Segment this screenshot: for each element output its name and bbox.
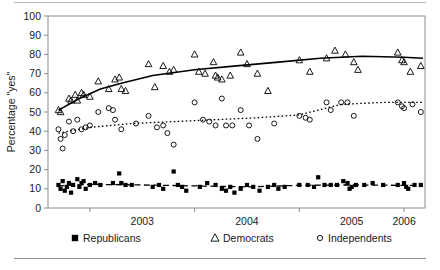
marker-square [297, 183, 301, 187]
x-tick-label: 2004 [235, 215, 259, 227]
marker-square [58, 187, 62, 191]
marker-circle [230, 123, 235, 128]
marker-triangle [116, 74, 123, 80]
marker-square [419, 183, 423, 187]
marker-circle [66, 119, 71, 124]
marker-square [56, 183, 60, 187]
y-tick-label: 10 [29, 182, 41, 194]
scatter-chart: Percentage "yes" 0102030405060708090100 … [0, 0, 440, 270]
marker-square [184, 189, 188, 193]
marker-triangle [407, 68, 414, 74]
legend-label: Democrats [223, 232, 274, 244]
marker-square [322, 183, 326, 187]
x-tick-label: 2003 [131, 215, 155, 227]
marker-square [283, 185, 287, 189]
marker-square [354, 183, 358, 187]
marker-square [123, 183, 127, 187]
marker-square [396, 183, 400, 187]
marker-triangle [160, 62, 167, 68]
marker-square [63, 189, 67, 193]
marker-square [117, 171, 121, 175]
series-independents [56, 96, 423, 151]
marker-circle [351, 113, 356, 118]
marker-triangle [95, 78, 102, 84]
marker-square [371, 181, 375, 185]
marker-square [205, 181, 209, 185]
marker-triangle [145, 61, 152, 67]
marker-square [151, 185, 155, 189]
marker-circle [255, 136, 260, 141]
marker-circle [161, 123, 166, 128]
marker-circle [171, 142, 176, 147]
marker-circle [75, 117, 80, 122]
marker-circle [345, 100, 350, 105]
marker-circle [58, 136, 63, 141]
marker-circle [328, 108, 333, 113]
y-tick-label: 40 [29, 125, 41, 137]
marker-square [257, 189, 261, 193]
marker-square [224, 189, 228, 193]
marker-square [350, 185, 354, 189]
marker-circle [62, 133, 67, 138]
marker-square [119, 181, 123, 185]
figure-bottom-rule [14, 258, 426, 259]
marker-triangle [170, 66, 177, 72]
marker-circle [297, 113, 302, 118]
y-tick-label: 70 [29, 67, 41, 79]
marker-circle [87, 123, 92, 128]
marker-square [228, 185, 232, 189]
marker-circle [119, 127, 124, 132]
marker-square [130, 183, 134, 187]
marker-triangle [210, 59, 217, 65]
y-tick-label: 50 [29, 106, 41, 118]
y-tick-label: 0 [35, 202, 41, 214]
marker-circle [165, 131, 170, 136]
marker-triangle [306, 68, 313, 74]
marker-triangle [227, 72, 234, 78]
marker-square [61, 179, 65, 183]
marker-square [180, 185, 184, 189]
marker-square [157, 183, 161, 187]
marker-square [220, 187, 224, 191]
y-axis-ticks: 0102030405060708090100 [23, 10, 48, 214]
marker-square [272, 183, 276, 187]
marker-square [82, 179, 86, 183]
marker-circle [219, 96, 224, 101]
marker-triangle [332, 47, 339, 53]
legend-item-independents: Independents [317, 232, 391, 244]
marker-square [335, 183, 339, 187]
marker-square [93, 181, 97, 185]
figure-container: Percentage "yes" 0102030405060708090100 … [0, 0, 440, 270]
marker-square [176, 183, 180, 187]
marker-square [402, 181, 406, 185]
marker-square [276, 187, 280, 191]
marker-circle [146, 113, 151, 118]
trend-line-democrats [58, 56, 422, 110]
legend-item-democrats: Democrats [211, 232, 274, 244]
marker-square [69, 191, 73, 195]
marker-circle [238, 108, 243, 113]
marker-square [406, 187, 410, 191]
x-axis-ticks: 2003200420052006 [90, 208, 416, 227]
y-tick-label: 20 [29, 163, 41, 175]
marker-triangle [350, 59, 357, 65]
marker-square [213, 183, 217, 187]
marker-triangle [394, 49, 401, 55]
marker-square [161, 187, 165, 191]
marker-square [71, 183, 75, 187]
legend-label: Independents [328, 232, 392, 244]
chart-legend: RepublicansDemocratsIndependents [72, 232, 392, 244]
marker-square [306, 183, 310, 187]
figure-top-rule [14, 2, 426, 3]
marker-circle [307, 117, 312, 122]
y-tick-label: 80 [29, 48, 41, 60]
marker-square [77, 185, 81, 189]
marker-circle [224, 123, 229, 128]
marker-square [245, 183, 249, 187]
marker-circle [60, 146, 65, 151]
marker-triangle [237, 49, 244, 55]
marker-circle [113, 117, 118, 122]
marker-triangle [68, 97, 75, 103]
marker-square [316, 175, 320, 179]
y-tick-label: 90 [29, 29, 41, 41]
